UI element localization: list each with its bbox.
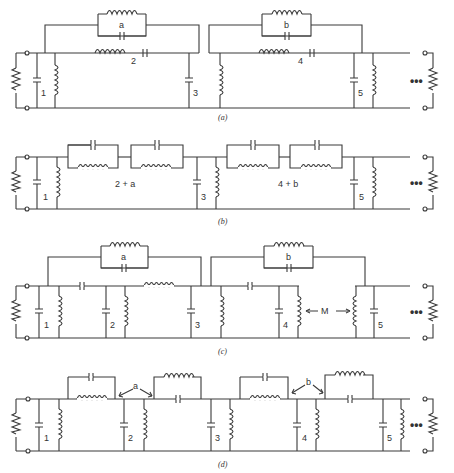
label-c4: 4: [302, 433, 307, 443]
panel-b: 1 2 + a 3 4 + b: [12, 140, 437, 226]
label-bridge-b: b: [284, 20, 289, 30]
label-bridge-a: a: [119, 20, 124, 30]
label-c5: 5: [359, 192, 364, 202]
caption-c: (c): [218, 347, 227, 356]
label-bridge-a: a: [121, 252, 126, 262]
label-mutual-m: M: [321, 306, 329, 316]
panel-a: 1 2 a 3 4 b 5 •••: [12, 11, 437, 123]
label-c1: 1: [44, 433, 49, 443]
label-c2: 2: [128, 433, 133, 443]
label-arrow-a: a: [133, 381, 138, 391]
label-combo-2a: 2 + a: [115, 179, 135, 189]
panel-d: 1 a 2 3 b: [12, 372, 437, 470]
label-c1: 1: [41, 88, 46, 98]
continuation-dots: •••: [410, 74, 423, 88]
caption-d: (d): [218, 460, 228, 469]
label-c3: 3: [215, 433, 220, 443]
continuation-dots: •••: [410, 176, 423, 190]
label-c3: 3: [201, 192, 206, 202]
label-c5: 5: [358, 88, 363, 98]
label-series-2: 2: [131, 56, 136, 66]
label-c3: 3: [193, 88, 198, 98]
label-c5: 5: [387, 433, 392, 443]
label-bridge-b: b: [286, 252, 291, 262]
label-c2: 2: [110, 320, 115, 330]
label-c4: 4: [283, 320, 288, 330]
source-resistor-icon: [12, 68, 20, 90]
caption-b: (b): [218, 217, 228, 226]
label-series-4: 4: [298, 56, 303, 66]
continuation-dots: •••: [410, 305, 423, 319]
continuation-dots: •••: [410, 418, 423, 432]
caption-a: (a): [218, 113, 228, 122]
inductor-icon: [55, 65, 58, 95]
load-resistor-icon: [429, 68, 437, 90]
panel-c: 1 2 a 3 4 M: [12, 243, 437, 357]
label-c3: 3: [195, 320, 200, 330]
filter-circuit-figure: 1 2 a 3 4 b 5 •••: [0, 0, 454, 473]
label-combo-4b: 4 + b: [278, 179, 298, 189]
label-c1: 1: [44, 320, 49, 330]
label-c1: 1: [43, 192, 48, 202]
label-arrow-b: b: [306, 377, 311, 387]
label-c5: 5: [378, 320, 383, 330]
